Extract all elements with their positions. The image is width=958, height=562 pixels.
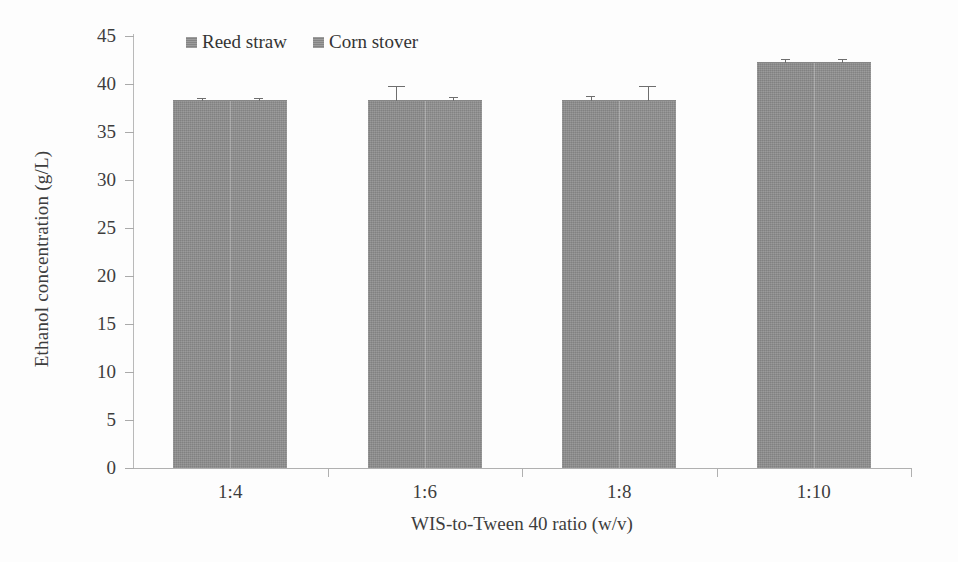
x-axis-tick-mark bbox=[328, 468, 329, 477]
legend-swatch-icon bbox=[313, 37, 324, 48]
bar[interactable] bbox=[230, 100, 287, 468]
bar-column[interactable] bbox=[230, 36, 287, 468]
y-axis-tick-label: 40 bbox=[72, 74, 116, 93]
bar-pair-divider bbox=[425, 101, 426, 468]
error-bar-cap bbox=[254, 98, 263, 99]
bar[interactable] bbox=[757, 62, 814, 468]
error-bar bbox=[453, 98, 454, 101]
legend-item-corn-stover: Corn stover bbox=[313, 31, 418, 53]
bar-column[interactable] bbox=[619, 36, 676, 468]
x-axis-tick-label: 1:6 bbox=[328, 481, 523, 503]
error-bar-cap bbox=[838, 59, 847, 60]
y-axis-tick-label: 35 bbox=[72, 122, 116, 141]
x-axis-tick-label: 1:4 bbox=[133, 481, 328, 503]
bar[interactable] bbox=[814, 62, 871, 468]
error-bar bbox=[648, 87, 649, 101]
bar-column[interactable] bbox=[368, 36, 425, 468]
bar-pair-divider bbox=[230, 101, 231, 468]
bar-column[interactable] bbox=[814, 36, 871, 468]
error-bar bbox=[259, 99, 260, 101]
bar-column[interactable] bbox=[173, 36, 230, 468]
bar-column[interactable] bbox=[757, 36, 814, 468]
x-axis-tick-mark bbox=[717, 468, 718, 477]
bar-pair-divider bbox=[814, 63, 815, 468]
error-bar-cap bbox=[449, 97, 458, 98]
error-bar-cap bbox=[639, 86, 656, 87]
bar-group bbox=[757, 36, 871, 468]
x-axis-tick-label: 1:10 bbox=[717, 481, 912, 503]
error-bar-cap bbox=[197, 98, 206, 99]
error-bar bbox=[842, 60, 843, 63]
y-axis-tick-label: 25 bbox=[72, 218, 116, 237]
bar-pair-divider bbox=[619, 101, 620, 468]
legend-label: Corn stover bbox=[329, 31, 418, 53]
error-bar bbox=[785, 60, 786, 63]
bar-group bbox=[173, 36, 287, 468]
error-bar-cap bbox=[781, 59, 790, 60]
x-axis-tick-label: 1:8 bbox=[522, 481, 717, 503]
y-axis-tick-label: 0 bbox=[72, 458, 116, 477]
y-axis-tick-label: 10 bbox=[72, 362, 116, 381]
y-axis-tick-mark bbox=[125, 468, 134, 469]
bar[interactable] bbox=[368, 100, 425, 468]
bar-column[interactable] bbox=[425, 36, 482, 468]
bar[interactable] bbox=[619, 100, 676, 468]
y-axis-tick-label: 30 bbox=[72, 170, 116, 189]
bar-column[interactable] bbox=[562, 36, 619, 468]
plot-area bbox=[133, 36, 911, 468]
error-bar bbox=[202, 99, 203, 101]
y-axis-tick-label: 15 bbox=[72, 314, 116, 333]
legend: Reed straw Corn stover bbox=[186, 31, 418, 53]
error-bar-cap bbox=[388, 86, 405, 87]
y-axis-tick-label: 5 bbox=[72, 410, 116, 429]
x-axis-tick-mark bbox=[911, 468, 912, 477]
legend-label: Reed straw bbox=[202, 31, 287, 53]
bar[interactable] bbox=[173, 100, 230, 468]
legend-item-reed-straw: Reed straw bbox=[186, 31, 287, 53]
x-axis-title: WIS-to-Tween 40 ratio (w/v) bbox=[133, 513, 911, 535]
y-axis-tick-label: 20 bbox=[72, 266, 116, 285]
bar[interactable] bbox=[425, 100, 482, 468]
error-bar bbox=[396, 87, 397, 101]
bar-group bbox=[368, 36, 482, 468]
bar-group bbox=[562, 36, 676, 468]
error-bar-cap bbox=[586, 96, 595, 97]
bar-chart-figure: Ethanol concentration (g/L) 454035302520… bbox=[0, 0, 958, 562]
bar[interactable] bbox=[562, 100, 619, 468]
y-axis-tick-label: 45 bbox=[72, 26, 116, 45]
x-axis-tick-mark bbox=[522, 468, 523, 477]
error-bar bbox=[591, 97, 592, 101]
legend-swatch-icon bbox=[186, 37, 197, 48]
y-axis-title: Ethanol concentration (g/L) bbox=[31, 49, 53, 469]
